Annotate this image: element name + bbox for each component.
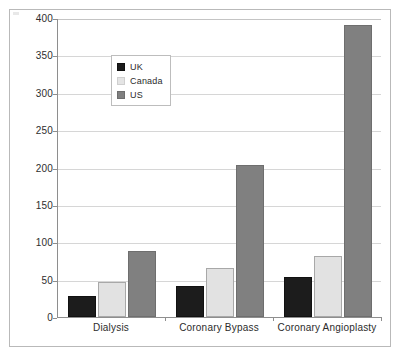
bar-uk-dialysis <box>68 296 96 317</box>
y-axis-tick-label: 150 <box>13 201 53 211</box>
bars-layer <box>58 19 381 317</box>
legend-entry-us: US <box>117 88 165 101</box>
y-axis-tick-label: 350 <box>13 51 53 61</box>
y-axis-tick-label: 0 <box>13 313 53 323</box>
x-axis-category-label: Coronary Bypass <box>165 322 273 334</box>
y-axis-tick-mark <box>53 318 57 319</box>
y-axis-tick-label: 400 <box>13 14 53 24</box>
legend-label: UK <box>130 62 143 72</box>
bar-uk-coronary-bypass <box>176 286 204 317</box>
x-axis-tick-mark <box>165 317 166 321</box>
y-axis: 050100150200250300350400 <box>10 19 53 318</box>
y-axis-tick-label: 200 <box>13 164 53 174</box>
legend-swatch-canada-icon <box>117 77 125 85</box>
bar-uk-coronary-angioplasty <box>284 277 312 317</box>
bar-canada-coronary-bypass <box>206 268 234 317</box>
y-axis-tick-label: 300 <box>13 89 53 99</box>
legend-label: US <box>130 90 143 100</box>
legend-label: Canada <box>130 76 163 86</box>
bar-group <box>166 19 274 317</box>
bar-us-coronary-bypass <box>236 165 264 317</box>
x-axis-category-label: Coronary Angioplasty <box>273 322 381 334</box>
bar-us-dialysis <box>128 251 156 317</box>
bar-canada-dialysis <box>98 282 126 317</box>
figure-frame: 050100150200250300350400 DialysisCoronar… <box>9 9 391 347</box>
y-axis-tick-label: 50 <box>13 276 53 286</box>
legend-entry-canada: Canada <box>117 74 165 87</box>
legend-swatch-uk-icon <box>117 63 125 71</box>
bar-canada-coronary-angioplasty <box>314 256 342 317</box>
chart-legend: UKCanadaUS <box>111 55 171 106</box>
x-axis-tick-mark <box>273 317 274 321</box>
bar-us-coronary-angioplasty <box>344 25 372 317</box>
x-axis: DialysisCoronary BypassCoronary Angiopla… <box>57 322 381 342</box>
legend-swatch-us-icon <box>117 91 125 99</box>
plot-area <box>57 19 381 318</box>
x-axis-tick-mark <box>381 317 382 321</box>
bar-group <box>274 19 382 317</box>
legend-entry-uk: UK <box>117 60 165 73</box>
y-axis-tick-label: 100 <box>13 238 53 248</box>
x-axis-category-label: Dialysis <box>57 322 165 334</box>
y-axis-tick-label: 250 <box>13 126 53 136</box>
